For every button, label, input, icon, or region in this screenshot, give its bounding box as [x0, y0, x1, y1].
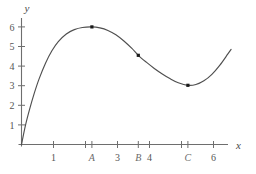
marked-point-local-maximum: [90, 25, 93, 28]
x-axis-label: x: [235, 139, 241, 151]
y-tick-label-3: 3: [10, 80, 15, 91]
y-tick-label-2: 2: [10, 100, 15, 111]
function-graph: 1A3B4C6 123456 xy: [0, 0, 256, 174]
x-tick-label-C: C: [185, 152, 192, 163]
y-tick-label-5: 5: [10, 41, 15, 52]
curve-group: [22, 27, 232, 145]
curve-path: [22, 27, 232, 145]
y-tick-label-6: 6: [10, 22, 15, 33]
y-axis-label: y: [24, 2, 30, 14]
x-tick-label-1: 1: [51, 152, 56, 163]
axis-labels-group: xy: [24, 2, 242, 151]
x-tick-label-A: A: [88, 152, 96, 163]
x-tick-label-B: B: [135, 152, 141, 163]
axes-group: [19, 18, 229, 147]
marked-point-local-minimum: [186, 84, 189, 87]
x-tick-label-6: 6: [211, 152, 216, 163]
marked-point-inflection: [137, 54, 140, 57]
x-tick-label-3: 3: [115, 152, 120, 163]
marked-points-group: [90, 25, 189, 87]
y-tick-label-1: 1: [10, 120, 15, 131]
figure-canvas: 1A3B4C6 123456 xy: [0, 0, 256, 174]
y-tick-label-4: 4: [10, 61, 15, 72]
x-tick-label-4: 4: [147, 152, 152, 163]
y-axis-ticks: 123456: [10, 22, 26, 131]
